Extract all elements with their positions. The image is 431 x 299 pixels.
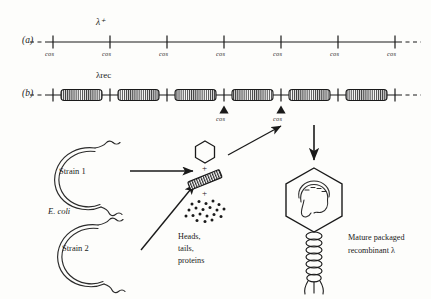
cos-site-label: cos	[45, 50, 54, 57]
mature-phage-particle	[286, 168, 342, 294]
components-caption-line-3: proteins	[178, 255, 204, 267]
panel-b-genome-label: λrec	[96, 70, 111, 80]
insert-segment	[289, 90, 330, 101]
cos-site-label: cos	[216, 50, 225, 57]
plus-sign-tail-proteins: +	[202, 188, 207, 198]
components-caption-line-1: Heads,	[178, 231, 201, 243]
phage-tail-sheath	[306, 232, 322, 282]
phage-head-component	[196, 141, 215, 163]
cos-pointer-label: cos	[216, 115, 225, 122]
insert-segment	[118, 90, 159, 101]
cos-site-label: cos	[273, 50, 282, 57]
components-caption-line-2: tails,	[178, 243, 194, 255]
product-caption-line-1: Mature packaged	[348, 232, 405, 244]
strain-2-cell	[58, 218, 125, 293]
protein-dots-component	[185, 200, 226, 224]
panel-a-genome	[30, 36, 421, 49]
cos-site-label: cos	[330, 50, 339, 57]
strain-1-label: Strain 1	[59, 167, 86, 177]
cos-pointer-triangle	[276, 106, 285, 114]
insert-segment	[175, 90, 216, 101]
packaged-dna-coil	[299, 181, 330, 217]
panel-b-genome	[30, 89, 421, 114]
insert-segment	[346, 90, 387, 101]
phage-tail-fibers	[305, 281, 324, 294]
panel-a-genome-label: λ⁺	[96, 17, 105, 28]
phage-capsid	[286, 168, 342, 232]
panel-b-label: (b)	[22, 88, 33, 99]
panel-b-cos-pointers	[219, 106, 285, 114]
cos-site-label: cos	[387, 50, 396, 57]
strain-1-cell	[55, 141, 122, 216]
ecoli-label: E. coli	[48, 207, 70, 217]
figure-canvas: (a) λ⁺ cos cos cos cos cos cos cos (b) λ…	[0, 0, 431, 299]
product-caption-line-2: recombinant λ	[348, 245, 395, 257]
cos-pointer-triangle	[219, 106, 228, 114]
cos-site-label: cos	[159, 50, 168, 57]
strain-2-label: Strain 2	[62, 244, 89, 254]
arrow-components-to-packaging	[228, 126, 281, 155]
insert-segment	[61, 90, 102, 101]
cos-site-label: cos	[102, 50, 111, 57]
cos-pointer-label: cos	[273, 115, 282, 122]
plus-sign-head-tail: +	[202, 163, 207, 173]
insert-segment	[232, 90, 273, 101]
panel-a-label: (a)	[22, 35, 33, 46]
